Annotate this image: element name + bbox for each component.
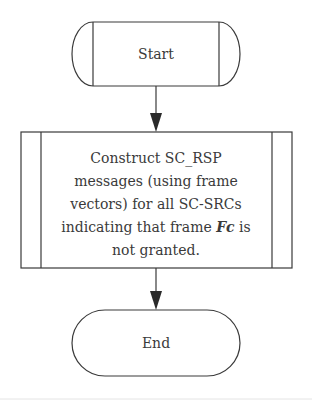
process-node: Construct SC_RSP messages (using frame v… bbox=[21, 132, 292, 268]
end-node: End bbox=[72, 310, 240, 376]
process-line-1: Construct SC_RSP bbox=[90, 150, 221, 167]
start-label: Start bbox=[138, 46, 174, 62]
arrow-start-to-process bbox=[150, 86, 162, 132]
start-node: Start bbox=[72, 22, 240, 86]
flowchart: Start Construct SC_RSP messages (using f… bbox=[0, 0, 312, 402]
process-line-2: messages (using frame bbox=[74, 173, 238, 189]
fc-emphasis: Fc bbox=[215, 219, 235, 235]
process-line-3: vectors) for all SC-SRCs bbox=[69, 196, 241, 212]
process-line-5: not granted. bbox=[112, 242, 200, 258]
process-line-4: indicating that frame Fc is bbox=[61, 219, 251, 235]
end-label: End bbox=[142, 335, 170, 351]
arrow-process-to-end bbox=[150, 268, 162, 310]
